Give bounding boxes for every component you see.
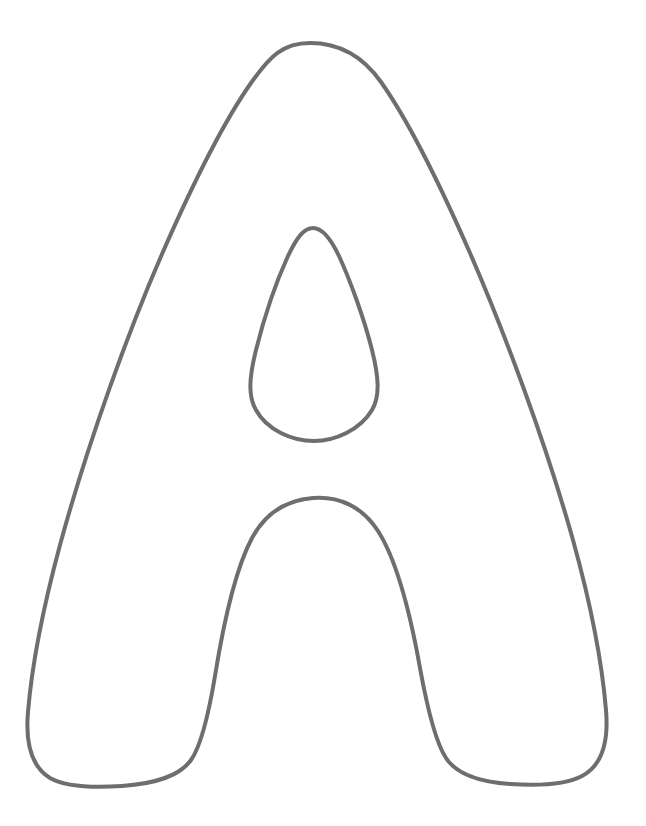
letter-a-illustration: Outline drawing of a rounded bubble-styl… [0, 0, 646, 826]
page-root: Bubble Letter A Coloring Template Outlin… [0, 0, 646, 826]
